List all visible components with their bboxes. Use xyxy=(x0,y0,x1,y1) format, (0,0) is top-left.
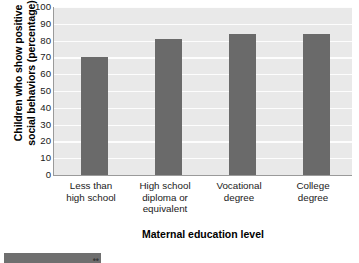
x-tick-line: Vocational xyxy=(202,180,276,192)
bottom-banner-fragment: •• xyxy=(4,253,101,263)
y-tick-100: 100 xyxy=(28,2,51,12)
bar-less-than-high-school xyxy=(81,57,108,175)
x-tick-college-degree: College degree xyxy=(276,180,350,203)
y-tick-80: 80 xyxy=(28,36,51,46)
x-tick-less-than-high-school: Less than high school xyxy=(54,180,128,203)
y-tick-10: 10 xyxy=(28,153,51,163)
x-axis-line xyxy=(53,175,352,176)
y-tick-40: 40 xyxy=(28,103,51,113)
y-tick-20: 20 xyxy=(28,136,51,146)
bar-college-degree xyxy=(303,34,330,175)
x-tick-vocational-degree: Vocational degree xyxy=(202,180,276,203)
y-tick-70: 70 xyxy=(28,52,51,62)
y-tick-0: 0 xyxy=(28,170,51,180)
x-tick-line: Less than xyxy=(54,180,128,192)
bar-high-school-diploma xyxy=(155,39,182,175)
y-axis-tick-labels: 100 90 80 70 60 50 40 30 20 10 0 xyxy=(28,0,51,181)
bar-chart-figure: Children who show positive social behavi… xyxy=(0,0,359,263)
bottom-banner-mark: •• xyxy=(93,256,99,263)
x-tick-line: high school xyxy=(54,192,128,204)
x-tick-line: College xyxy=(276,180,350,192)
x-axis-tick-labels: Less than high school High school diplom… xyxy=(54,180,352,224)
y-tick-50: 50 xyxy=(28,86,51,96)
y-tick-60: 60 xyxy=(28,69,51,79)
y-axis-line xyxy=(53,7,54,176)
plot-area xyxy=(54,7,352,175)
x-tick-high-school-diploma: High school diploma or equivalent xyxy=(128,180,202,215)
y-tick-30: 30 xyxy=(28,120,51,130)
x-tick-line: degree xyxy=(276,192,350,204)
y-axis-title-line-1: Children who show positive xyxy=(12,5,25,141)
x-tick-line: equivalent xyxy=(128,203,202,215)
y-tick-90: 90 xyxy=(28,19,51,29)
bar-series xyxy=(54,7,352,175)
bar-vocational-degree xyxy=(229,34,256,175)
x-tick-line: degree xyxy=(202,192,276,204)
x-tick-line: diploma or xyxy=(128,192,202,204)
x-tick-line: High school xyxy=(128,180,202,192)
x-axis-title: Maternal education level xyxy=(54,228,352,240)
